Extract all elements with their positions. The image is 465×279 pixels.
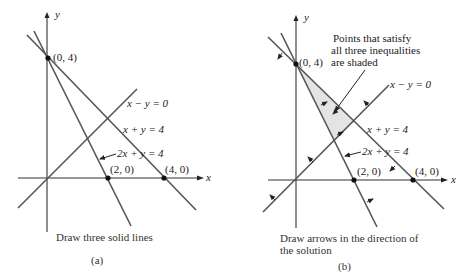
y-axis-label: y bbox=[303, 11, 309, 23]
label-x-minus-y-eq-0: x − y = 0 bbox=[126, 97, 169, 109]
label-x-plus-y-eq-4: x + y = 4 bbox=[366, 123, 409, 135]
point-label-0-4: (0, 4) bbox=[299, 56, 323, 69]
x-axis-arrow-icon bbox=[441, 178, 448, 183]
annotation-line-3: are shaded bbox=[331, 56, 378, 68]
y-axis-arrow-icon bbox=[45, 12, 50, 18]
direction-arrow-icon bbox=[390, 166, 395, 171]
point-label-0-4: (0, 4) bbox=[53, 51, 77, 64]
point-label-2-0: (2, 0) bbox=[110, 163, 134, 176]
annotation-line-2: all three inequalities bbox=[331, 44, 420, 56]
point-0-4 bbox=[45, 55, 50, 60]
point-4-0 bbox=[161, 175, 166, 180]
point-label-4-0: (4, 0) bbox=[165, 163, 189, 176]
annotation-line-1: Points that satisfy bbox=[333, 32, 412, 44]
y-axis-arrow-icon bbox=[294, 15, 299, 21]
panel-a: y x (0, 4) (2, 0) (4, 0) x − y = 0 x + y… bbox=[18, 8, 211, 267]
direction-arrow-icon bbox=[278, 53, 282, 59]
label-x-minus-y-eq-0: x − y = 0 bbox=[389, 78, 432, 90]
figure-canvas: y x (0, 4) (2, 0) (4, 0) x − y = 0 x + y… bbox=[0, 0, 465, 279]
x-axis-label: x bbox=[205, 171, 211, 183]
x-axis-arrow-icon bbox=[197, 176, 204, 181]
sublabel-a: (a) bbox=[91, 254, 104, 267]
label-x-plus-y-eq-4: x + y = 4 bbox=[122, 123, 165, 135]
label-2x-plus-y-eq-4: 2x + y = 4 bbox=[362, 145, 409, 157]
sublabel-b: (b) bbox=[338, 260, 351, 273]
panel-b: y x (0, 4) (2, 0) (4, 0) Points that sat… bbox=[263, 11, 456, 273]
direction-arrow-icon bbox=[308, 157, 313, 162]
direction-arrow-icon bbox=[367, 199, 373, 202]
leader-arrow-icon bbox=[345, 152, 361, 156]
direction-arrow-icon bbox=[364, 101, 369, 106]
point-label-2-0: (2, 0) bbox=[357, 165, 381, 178]
x-axis-label: x bbox=[450, 173, 456, 185]
point-0-4 bbox=[293, 61, 298, 66]
caption-a: Draw three solid lines bbox=[56, 231, 153, 243]
caption-b-line-2: the solution bbox=[280, 244, 332, 256]
point-label-4-0: (4, 0) bbox=[415, 165, 439, 178]
direction-arrow-icon bbox=[270, 195, 275, 200]
y-axis-label: y bbox=[54, 8, 60, 20]
annotation-leader-arrow-icon bbox=[335, 70, 365, 111]
point-4-0 bbox=[410, 177, 415, 182]
point-2-0 bbox=[105, 175, 110, 180]
label-2x-plus-y-eq-4: 2x + y = 4 bbox=[117, 147, 164, 159]
leader-arrow-icon bbox=[100, 154, 116, 159]
point-2-0 bbox=[351, 177, 356, 182]
caption-b-line-1: Draw arrows in the direction of bbox=[280, 232, 419, 244]
